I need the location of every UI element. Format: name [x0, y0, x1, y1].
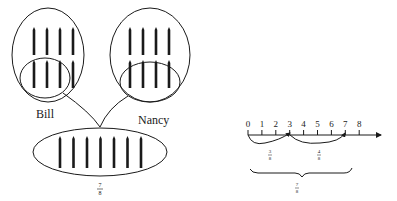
total-fraction: 7 8: [295, 182, 299, 194]
diagram-svg: Bill Nancy 7 8 012345678: [0, 0, 397, 201]
combined-fraction: 7 8: [97, 182, 103, 196]
stick-icon: [59, 136, 62, 168]
svg-text:8: 8: [269, 156, 272, 161]
number-line: 012345678 3 8 4 8 7 8: [246, 119, 381, 194]
stick-icon: [46, 60, 49, 88]
stick-icon: [86, 136, 89, 168]
svg-text:7: 7: [296, 182, 299, 187]
stick-icon: [129, 60, 132, 88]
stick-icon: [46, 27, 49, 55]
svg-text:3: 3: [269, 149, 272, 154]
tick-label: 0: [246, 119, 251, 129]
stick-icon: [126, 136, 129, 168]
fraction-addition-diagram: Bill Nancy 7 8 012345678: [0, 0, 397, 201]
svg-text:4: 4: [318, 149, 321, 154]
stick-icon: [72, 27, 75, 55]
stick-icon: [59, 60, 62, 88]
stick-icon: [168, 60, 171, 88]
total-brace: [250, 168, 352, 177]
tick-marks: [248, 130, 359, 135]
stick-icon: [142, 27, 145, 55]
svg-text:8: 8: [99, 190, 102, 196]
stick-icon: [155, 27, 158, 55]
stick-icon: [99, 136, 102, 168]
tick-labels: 012345678: [246, 119, 362, 129]
merge-connector: [63, 93, 128, 127]
jump-1-fraction: 3 8: [268, 149, 272, 161]
combined-group: 7 8: [33, 128, 167, 196]
tick-label: 8: [357, 119, 362, 129]
stick-icon: [33, 27, 36, 55]
stick-icon: [142, 60, 145, 88]
bill-label: Bill: [36, 107, 55, 121]
nancy-group: Nancy: [110, 8, 190, 127]
jump-2-fraction: 4 8: [317, 149, 321, 161]
nancy-label: Nancy: [138, 113, 169, 127]
stick-icon: [72, 136, 75, 168]
bill-group: Bill: [12, 8, 84, 121]
stick-icon: [129, 27, 132, 55]
stick-icon: [168, 27, 171, 55]
tick-label: 3: [287, 119, 292, 129]
tick-label: 7: [343, 119, 348, 129]
stick-icon: [155, 60, 158, 88]
stick-icon: [33, 60, 36, 88]
svg-text:8: 8: [318, 156, 321, 161]
bill-sticks: [33, 27, 75, 88]
stick-icon: [72, 60, 75, 88]
tick-label: 5: [315, 119, 320, 129]
tick-label: 4: [301, 119, 306, 129]
tick-label: 1: [260, 119, 265, 129]
svg-text:8: 8: [296, 189, 299, 194]
stick-icon: [140, 136, 143, 168]
nancy-sticks: [129, 27, 171, 88]
tick-label: 6: [329, 119, 334, 129]
tick-label: 2: [274, 119, 279, 129]
stick-icon: [113, 136, 116, 168]
stick-icon: [59, 27, 62, 55]
svg-text:7: 7: [99, 182, 102, 188]
combined-sticks: [59, 136, 143, 168]
